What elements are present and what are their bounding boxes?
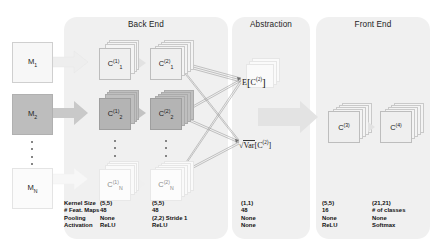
arrow-c2-1-to-c2-2 <box>139 108 146 118</box>
panel-title-abstraction: Abstraction <box>232 20 310 29</box>
cube-c1-1-label: C(1)1 <box>108 58 123 70</box>
input-map-n-label: MN <box>27 183 37 194</box>
spec-c1-feat-maps: 48 <box>100 207 107 214</box>
figure-canvas: Back End Abstraction Front End <box>0 0 436 247</box>
input-ellipsis <box>30 141 34 165</box>
spec-c3-pooling: None <box>322 215 337 222</box>
spec-row-label-kernel-size: Kernel Size <box>64 200 96 207</box>
spec-c2-kernel-size: (5,5) <box>152 200 164 207</box>
spec-row-label-pooling: Pooling <box>64 215 86 222</box>
spec-c4-kernel-size: (21,21) <box>372 200 391 207</box>
spec-c4-pooling: None <box>372 215 387 222</box>
panel-title-back-end: Back End <box>64 20 228 29</box>
spec-c1-pooling: None <box>100 215 115 222</box>
cube-cn-2: C(2)N <box>150 161 196 203</box>
panel-title-front-end: Front End <box>316 20 430 29</box>
cube-c4-label: C(4) <box>390 122 402 132</box>
cube-cn-2-label: C(2)N <box>158 179 173 191</box>
spec-c4-feat-maps: # of classes <box>372 207 405 214</box>
spec-abstraction-activation: None <box>241 222 256 229</box>
spec-abstraction-kernel-size: (1,1) <box>241 200 253 207</box>
cube-c2-2-label: C(2)2 <box>159 108 174 120</box>
cube-c3-label: C(3) <box>338 122 350 132</box>
arrow-c1-1-to-c1-2 <box>139 58 146 68</box>
spec-c2-pooling: (2,2) Stride 1 <box>152 215 187 222</box>
arrow-c3-to-c4 <box>368 122 375 132</box>
spec-c2-feat-maps: 48 <box>152 207 159 214</box>
spec-c1-activation: ReLU <box>100 222 115 229</box>
spec-c3-activation: ReLU <box>322 222 337 229</box>
spec-c4-activation: Softmax <box>372 222 395 229</box>
cube-c2-1-label: C(1)2 <box>108 108 123 120</box>
spec-c2-activation: ReLU <box>152 222 167 229</box>
spec-c1-kernel-size: (5,5) <box>100 200 112 207</box>
cube-c2-2: C(2)2 <box>150 90 196 132</box>
spec-c3-feat-maps: 16 <box>322 207 329 214</box>
spec-abstraction-pooling: None <box>241 215 256 222</box>
spec-abstraction-feat-maps: 48 <box>241 207 248 214</box>
input-map-1: M1 <box>12 42 53 83</box>
input-map-2: M2 <box>12 94 53 135</box>
abstraction-std-formula: √Var[C(2)] <box>239 139 271 150</box>
input-map-n: MN <box>12 168 53 209</box>
cube-c1-2-label: C(2)1 <box>159 58 174 70</box>
input-map-1-label: M1 <box>28 57 37 68</box>
spec-c3-kernel-size: (5,5) <box>322 200 334 207</box>
cube-c1-2: C(2)1 <box>150 40 196 82</box>
abstraction-mean-formula: E[C(2)] <box>242 76 266 88</box>
cube-c4: C(4) <box>380 103 426 147</box>
spec-row-label-feat-maps: # Feat. Maps <box>64 207 99 214</box>
cube-cn-1-label: C(1)N <box>107 179 122 191</box>
input-map-2-label: M2 <box>28 109 37 120</box>
spec-row-label-activation: Activation <box>64 222 92 229</box>
arrow-cn-1-to-cn-2 <box>139 179 146 189</box>
